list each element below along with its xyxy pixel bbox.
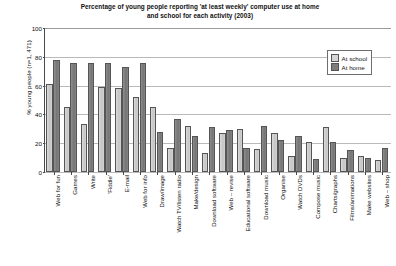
bar-group xyxy=(45,28,62,172)
bar-at-home xyxy=(313,159,319,172)
bar-group xyxy=(201,28,218,172)
bar-group xyxy=(270,28,287,172)
bar-at-school xyxy=(150,107,156,172)
y-tick-label: 40 xyxy=(35,111,42,118)
x-axis-category-label: Download music xyxy=(263,175,269,220)
bar-at-school xyxy=(81,124,87,172)
bar-at-school xyxy=(375,160,381,172)
bar-group xyxy=(218,28,235,172)
bar-at-school xyxy=(202,153,208,172)
bar-at-home xyxy=(330,142,336,172)
bar-at-school xyxy=(358,156,364,172)
gridline xyxy=(45,172,391,173)
x-axis-category-label: Web – shop xyxy=(384,175,390,207)
bar-at-home xyxy=(347,150,353,172)
x-axis-category-label: Watch TV/listen radio xyxy=(176,175,182,233)
x-axis-category-label: Educational software xyxy=(245,175,251,232)
y-tick-label: 0 xyxy=(39,169,42,176)
x-axis-category-label: Make websites xyxy=(366,175,372,215)
legend-item-at-school: At school xyxy=(331,54,367,63)
legend-item-at-home: At home xyxy=(331,63,367,72)
y-tick-label: 80 xyxy=(35,53,42,60)
bar-group xyxy=(166,28,183,172)
bar-group xyxy=(374,28,391,172)
bar-at-home xyxy=(226,130,232,172)
bar-at-school xyxy=(254,149,260,172)
bar-group xyxy=(235,28,252,172)
bar-at-school xyxy=(219,133,225,172)
x-axis-category-label: Charts/graphs xyxy=(332,175,338,213)
x-axis-category-label: 'Fiddle' xyxy=(107,175,113,194)
x-axis-category-label: Web – revise xyxy=(228,175,234,210)
x-axis-category-label: Download software xyxy=(211,175,217,227)
y-tick-mark xyxy=(43,172,46,173)
bar-group xyxy=(80,28,97,172)
chart-title-line-2: and school for each activity (2003) xyxy=(40,12,360,21)
bar-group xyxy=(305,28,322,172)
bar-at-school xyxy=(115,88,121,172)
bar-chart: Percentage of young people reporting 'at… xyxy=(0,0,396,266)
x-axis-category-label: Write xyxy=(90,175,96,189)
bar-at-home xyxy=(243,148,249,172)
bar-group xyxy=(114,28,131,172)
bar-group xyxy=(287,28,304,172)
bar-at-school xyxy=(133,97,139,172)
legend-label-at-home: At home xyxy=(342,64,365,71)
y-tick-label: 100 xyxy=(32,25,42,32)
bar-at-school xyxy=(271,133,277,172)
bar-at-school xyxy=(237,129,243,172)
legend-swatch-icon-at-home xyxy=(331,63,339,71)
bar-group xyxy=(183,28,200,172)
bar-at-school xyxy=(288,156,294,172)
bar-at-home xyxy=(122,67,128,172)
x-axis-category-label: Draw/image xyxy=(159,175,165,208)
bar-at-school xyxy=(323,127,329,172)
x-axis-category-label: Games xyxy=(72,175,78,195)
bar-group xyxy=(97,28,114,172)
bar-at-home xyxy=(140,63,146,172)
bar-at-school xyxy=(306,142,312,172)
y-tick-label: 60 xyxy=(35,82,42,89)
y-axis-label: % young people (n=1, 471) xyxy=(25,8,32,148)
bar-at-school xyxy=(98,87,104,172)
y-tick-label: 20 xyxy=(35,140,42,147)
legend-label-at-school: At school xyxy=(342,55,367,62)
x-axis-category-label: Web for fun xyxy=(55,175,61,206)
bar-at-home xyxy=(209,127,215,172)
x-axis-category-label: Web for info xyxy=(142,175,148,208)
x-axis-category-label: Make/design xyxy=(193,175,199,210)
bar-at-school xyxy=(46,84,52,172)
bar-group xyxy=(149,28,166,172)
bar-group xyxy=(253,28,270,172)
x-axis-category-label: Compose music xyxy=(315,175,321,219)
x-axis-labels: Web for funGamesWrite'Fiddle'E-mailWeb f… xyxy=(44,175,390,265)
bar-at-school xyxy=(185,126,191,172)
x-axis-category-label: E-mail xyxy=(124,175,130,192)
bar-at-home xyxy=(278,140,284,172)
bar-at-school xyxy=(167,148,173,172)
x-axis-category-label: Organise xyxy=(280,175,286,200)
bar-at-home xyxy=(192,136,198,172)
legend-swatch-icon-at-school xyxy=(331,54,339,62)
bar-at-home xyxy=(105,63,111,172)
bar-at-home xyxy=(53,60,59,172)
bar-at-home xyxy=(174,119,180,172)
bar-at-school xyxy=(340,158,346,172)
bar-at-home xyxy=(157,132,163,172)
chart-legend: At school At home xyxy=(327,50,372,75)
bar-at-home xyxy=(365,158,371,172)
chart-title: Percentage of young people reporting 'at… xyxy=(40,3,360,20)
bar-group xyxy=(62,28,79,172)
x-axis-category-label: Films/animations xyxy=(349,175,355,221)
bar-group xyxy=(132,28,149,172)
chart-title-line-1: Percentage of young people reporting 'at… xyxy=(40,3,360,12)
bar-at-home xyxy=(70,63,76,172)
bar-at-home xyxy=(261,126,267,172)
bar-at-home xyxy=(382,148,388,172)
bar-at-home xyxy=(88,63,94,172)
bar-at-school xyxy=(64,107,70,172)
bar-at-home xyxy=(295,136,301,172)
x-axis-category-label: Watch DVDs xyxy=(297,175,303,210)
